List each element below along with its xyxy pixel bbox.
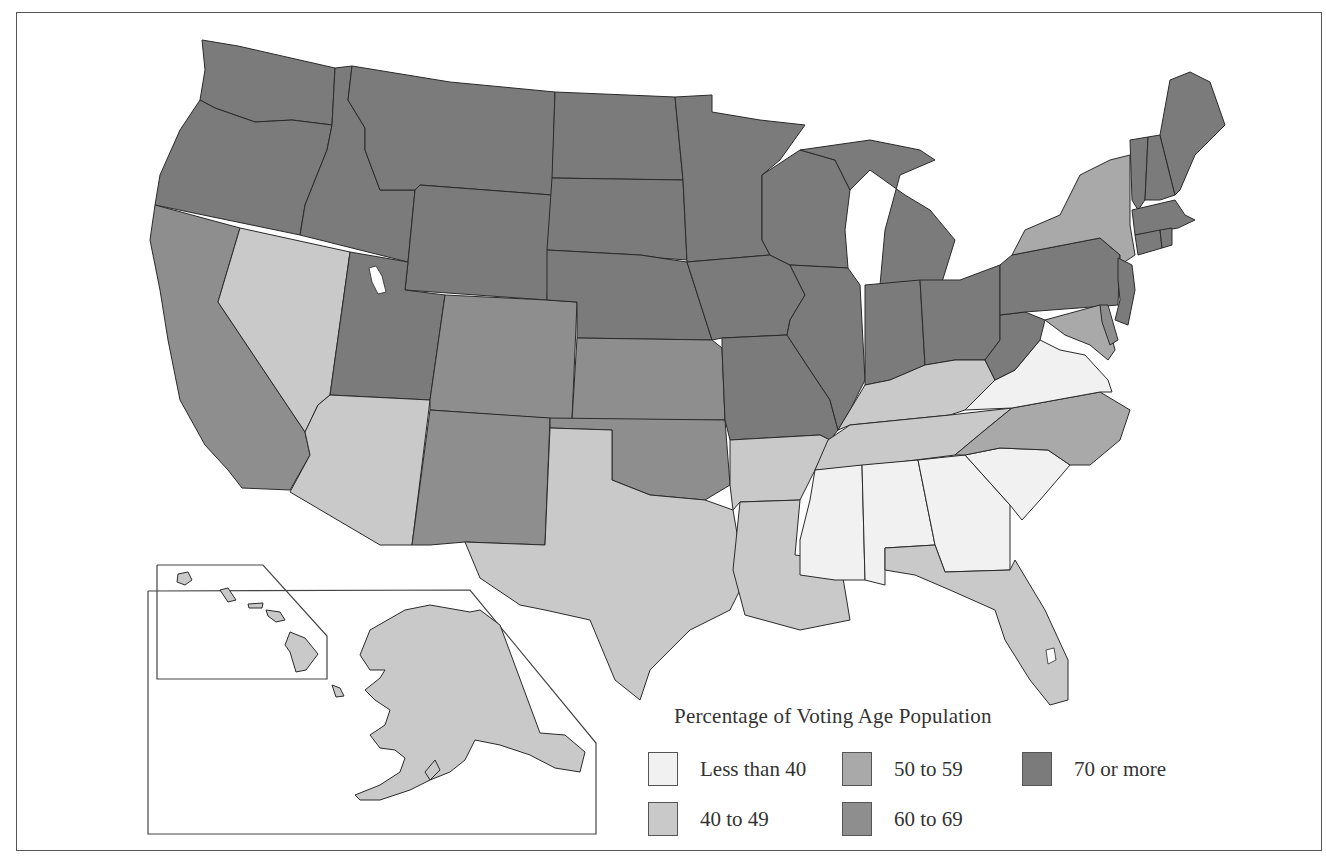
state-ND[interactable] (552, 92, 683, 180)
state-AK-stlawrence[interactable] (332, 685, 344, 697)
legend-label-60-69: 60 to 69 (894, 807, 963, 832)
hawaii (177, 572, 318, 672)
state-WY[interactable] (405, 185, 552, 300)
legend-item-70plus: 70 or more (1022, 752, 1166, 786)
legend-label-lt40: Less than 40 (700, 757, 806, 782)
state-HI-molokai[interactable] (248, 603, 263, 608)
state-HI-maui[interactable] (266, 610, 285, 622)
state-AK[interactable] (355, 605, 585, 800)
state-SD[interactable] (547, 178, 687, 260)
legend-swatch-50-59 (842, 752, 872, 786)
legend-label-50-59: 50 to 59 (894, 757, 963, 782)
legend-item-50-59: 50 to 59 (842, 752, 963, 786)
legend: Percentage of Voting Age Population Less… (612, 704, 1252, 854)
state-CO[interactable] (430, 295, 577, 420)
legend-title: Percentage of Voting Age Population (674, 704, 992, 729)
legend-swatch-lt40 (648, 752, 678, 786)
legend-swatch-60-69 (842, 802, 872, 836)
contiguous-states (150, 40, 1225, 705)
state-RI[interactable] (1160, 228, 1172, 248)
state-CT[interactable] (1135, 230, 1162, 255)
legend-item-40-49: 40 to 49 (648, 802, 769, 836)
legend-label-70plus: 70 or more (1074, 757, 1166, 782)
legend-item-lt40: Less than 40 (648, 752, 806, 786)
legend-swatch-40-49 (648, 802, 678, 836)
state-HI-big[interactable] (285, 632, 318, 672)
state-NM[interactable] (412, 410, 550, 545)
legend-label-40-49: 40 to 49 (700, 807, 769, 832)
state-HI-kauai[interactable] (177, 572, 192, 585)
legend-item-60-69: 60 to 69 (842, 802, 963, 836)
alaska (332, 605, 585, 800)
state-OH[interactable] (920, 265, 1000, 365)
state-MS[interactable] (800, 465, 865, 580)
legend-swatch-70plus (1022, 752, 1052, 786)
state-HI-oahu[interactable] (220, 588, 236, 602)
state-WI[interactable] (762, 150, 850, 268)
state-KS[interactable] (572, 338, 725, 420)
state-MT[interactable] (348, 66, 555, 195)
